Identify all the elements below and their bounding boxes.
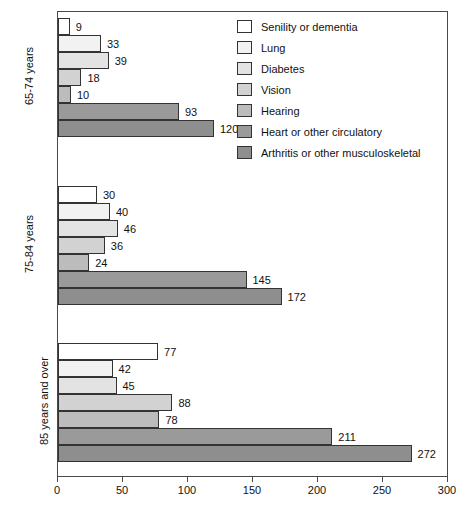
legend-item: Vision: [237, 79, 442, 100]
bar-value-label: 33: [107, 38, 119, 49]
x-axis-tick: [252, 477, 253, 482]
legend-item: Hearing: [237, 100, 442, 121]
bar-row: 145: [58, 271, 448, 288]
x-axis-tick-label: 200: [308, 484, 326, 496]
bar-value-label: 40: [116, 206, 128, 217]
bar-value-label: 30: [103, 189, 115, 200]
bar-value-label: 78: [165, 414, 177, 425]
bar: [58, 360, 113, 377]
bar-value-label: 88: [178, 397, 190, 408]
bar-row: 40: [58, 203, 448, 220]
bar: [58, 35, 101, 52]
legend-item: Lung: [237, 37, 442, 58]
bar-row: 272: [58, 445, 448, 462]
group-label-text: 75-84 years: [23, 214, 35, 272]
bar: [58, 52, 109, 69]
bar-row: 36: [58, 237, 448, 254]
bar-value-label: 93: [185, 106, 197, 117]
bar: [58, 86, 71, 103]
group-label-1: 65-74 years: [0, 70, 22, 82]
legend-item: Senility or dementia: [237, 16, 442, 37]
bar: [58, 411, 159, 428]
bar-value-label: 272: [418, 448, 436, 459]
group-label-2: 75-84 years: [0, 238, 22, 250]
bar-row: 45: [58, 377, 448, 394]
bar: [58, 103, 179, 120]
bar-value-label: 18: [87, 72, 99, 83]
bar: [58, 377, 117, 394]
legend-label: Senility or dementia: [261, 21, 358, 33]
bar: [58, 120, 214, 137]
bar-value-label: 172: [288, 291, 306, 302]
chart-legend: Senility or dementiaLungDiabetesVisionHe…: [237, 16, 442, 163]
bar-row: 88: [58, 394, 448, 411]
x-axis-tick-label: 0: [54, 484, 60, 496]
bar-row: 46: [58, 220, 448, 237]
bar-row: 77: [58, 343, 448, 360]
bar-value-label: 45: [123, 380, 135, 391]
x-axis-tick-label: 100: [178, 484, 196, 496]
group-label-text: 65-74 years: [23, 46, 35, 104]
x-axis-tick: [57, 477, 58, 482]
bar: [58, 288, 282, 305]
bar: [58, 186, 97, 203]
x-axis-tick: [447, 477, 448, 482]
bar: [58, 394, 172, 411]
bar-row: 30: [58, 186, 448, 203]
bar: [58, 254, 89, 271]
bar: [58, 18, 70, 35]
x-axis-tick: [317, 477, 318, 482]
bar: [58, 237, 105, 254]
legend-swatch-icon: [237, 62, 252, 75]
bar-row: 172: [58, 288, 448, 305]
bar-value-label: 46: [124, 223, 136, 234]
bar: [58, 203, 110, 220]
bar-chart: 9333918109312030404636241451727742458878…: [0, 0, 464, 517]
legend-swatch-icon: [237, 41, 252, 54]
bar-row: 42: [58, 360, 448, 377]
legend-label: Lung: [261, 42, 285, 54]
x-axis: 050100150200250300: [57, 477, 448, 507]
legend-label: Diabetes: [261, 63, 304, 75]
bar: [58, 428, 332, 445]
bar-row: 24: [58, 254, 448, 271]
x-axis-tick: [187, 477, 188, 482]
legend-label: Vision: [261, 84, 291, 96]
x-axis-tick: [122, 477, 123, 482]
bar-value-label: 24: [95, 257, 107, 268]
bar: [58, 69, 81, 86]
x-axis-tick-label: 300: [438, 484, 456, 496]
legend-item: Heart or other circulatory: [237, 121, 442, 142]
bar-value-label: 9: [76, 21, 82, 32]
bar-row: 211: [58, 428, 448, 445]
bar-value-label: 77: [164, 346, 176, 357]
bar-value-label: 10: [77, 89, 89, 100]
group-label-3: 85 years and over: [0, 395, 22, 407]
legend-item: Diabetes: [237, 58, 442, 79]
bar-value-label: 39: [115, 55, 127, 66]
legend-swatch-icon: [237, 104, 252, 117]
legend-item: Arthritis or other musculoskeletal: [237, 142, 442, 163]
bar-row: 78: [58, 411, 448, 428]
bar: [58, 343, 158, 360]
bar: [58, 271, 247, 288]
x-axis-tick-label: 150: [243, 484, 261, 496]
bar-value-label: 145: [253, 274, 271, 285]
legend-label: Hearing: [261, 105, 300, 117]
legend-swatch-icon: [237, 125, 252, 138]
legend-label: Heart or other circulatory: [261, 126, 382, 138]
legend-swatch-icon: [237, 20, 252, 33]
x-axis-tick: [382, 477, 383, 482]
bar-value-label: 211: [338, 431, 356, 442]
bar: [58, 445, 412, 462]
bar: [58, 220, 118, 237]
x-axis-tick-label: 50: [116, 484, 128, 496]
bar-value-label: 36: [111, 240, 123, 251]
legend-label: Arthritis or other musculoskeletal: [261, 147, 421, 159]
legend-swatch-icon: [237, 83, 252, 96]
x-axis-tick-label: 250: [373, 484, 391, 496]
group-label-text: 85 years and over: [38, 356, 50, 444]
bar-value-label: 42: [119, 363, 131, 374]
bar-value-label: 120: [220, 123, 238, 134]
legend-swatch-icon: [237, 146, 252, 159]
